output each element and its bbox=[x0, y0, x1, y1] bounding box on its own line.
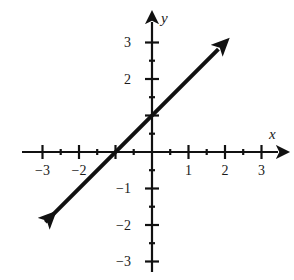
x-tick-label-2: 2 bbox=[222, 164, 229, 178]
x-axis-label: x bbox=[269, 127, 276, 142]
y-tick-label-3: 3 bbox=[124, 36, 131, 50]
y-axis bbox=[145, 22, 159, 272]
plotted-line-series bbox=[45, 49, 218, 222]
y-axis-label: y bbox=[161, 11, 168, 26]
line-y-equals-x-plus-1 bbox=[45, 49, 218, 222]
coordinate-plane-figure: −3 −2 1 2 3 3 2 −1 −2 −3 x y bbox=[0, 0, 294, 280]
x-axis bbox=[22, 145, 278, 159]
y-tick-label-neg2: −2 bbox=[116, 219, 131, 233]
x-tick-label-neg2: −2 bbox=[72, 164, 87, 178]
graph-canvas bbox=[0, 0, 294, 280]
y-tick-label-neg1: −1 bbox=[116, 182, 131, 196]
y-tick-label-neg3: −3 bbox=[116, 255, 131, 269]
x-tick-label-3: 3 bbox=[258, 164, 265, 178]
x-tick-label-1: 1 bbox=[185, 164, 192, 178]
x-tick-label-neg3: −3 bbox=[35, 164, 50, 178]
y-tick-label-2: 2 bbox=[124, 73, 131, 87]
